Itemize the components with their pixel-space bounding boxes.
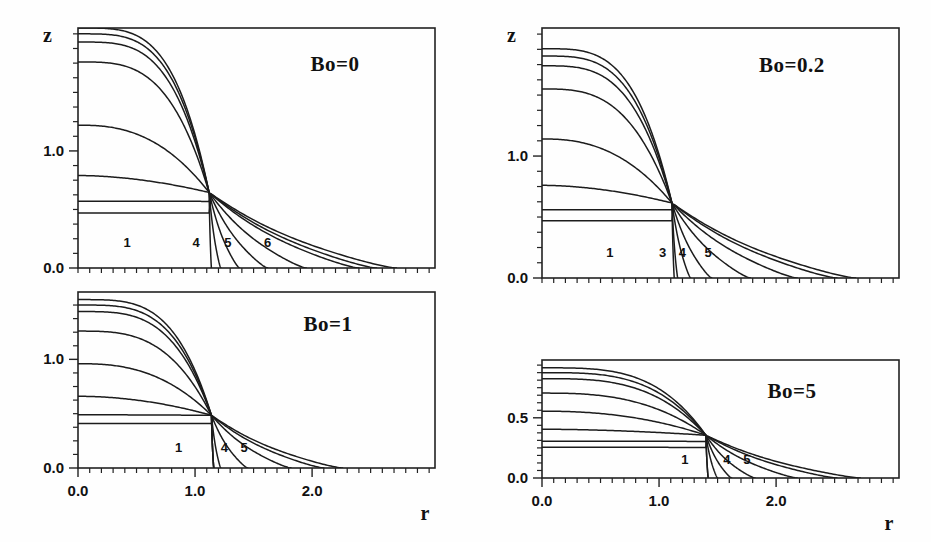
profile-curve-c3 — [542, 429, 797, 478]
curve-label-1: 1 — [606, 245, 613, 260]
x-tick-label: 2.0 — [302, 482, 323, 499]
plot-svg-bo-02: 0.01.0z1345Bo=0.2 — [542, 28, 931, 338]
profile-curve-c8 — [78, 28, 211, 268]
curve-label-4: 4 — [221, 440, 229, 455]
profile-curve-c3 — [78, 396, 291, 468]
profile-curve-c5 — [78, 62, 268, 268]
x-tick-label: 0.0 — [68, 482, 89, 499]
axis-ticks — [69, 305, 429, 477]
curve-label-6: 6 — [264, 235, 271, 250]
plot-panel-bo-02: 0.01.0z1345Bo=0.2 — [542, 28, 931, 338]
axes-frame — [542, 28, 899, 278]
plot-panel-bo-0: 0.01.0z1456Bo=0 — [78, 28, 505, 328]
profile-curve-c6 — [78, 42, 240, 268]
figure-canvas: 0.01.0z1456Bo=00.01.0z1345Bo=0.20.01.00.… — [0, 0, 931, 542]
x-axis-title: r — [421, 502, 430, 524]
profile-curve-c7 — [78, 305, 214, 468]
y-tick-label: 0.0 — [507, 469, 528, 486]
plot-svg-bo-5: 0.00.50.01.02.0r145Bo=5 — [542, 360, 931, 538]
x-tick-label: 2.0 — [766, 492, 787, 509]
plot-panel-bo-5: 0.00.50.01.02.0r145Bo=5 — [542, 360, 931, 538]
profile-curve-c1 — [78, 194, 396, 268]
curve-label-5: 5 — [743, 452, 750, 467]
y-tick-label: 0.0 — [507, 269, 528, 286]
x-tick-label: 1.0 — [649, 492, 670, 509]
y-tick-label: 0.5 — [507, 409, 528, 426]
profile-curve-c5 — [542, 89, 712, 278]
curve-label-4: 4 — [193, 235, 201, 250]
bond-number-label: Bo=0 — [311, 52, 360, 76]
curve-label-1: 1 — [124, 235, 131, 250]
profile-curve-c1 — [78, 416, 343, 468]
profile-curve-c5 — [78, 331, 221, 468]
curve-label-5: 5 — [241, 440, 248, 455]
curve-label-4: 4 — [723, 452, 731, 467]
profile-curve-c2 — [542, 436, 837, 478]
axis-ticks — [533, 34, 893, 283]
profile-curve-c2 — [542, 205, 837, 278]
curve-label-3: 3 — [659, 245, 666, 260]
y-tick-label: 1.0 — [43, 142, 64, 159]
curve-label-5: 5 — [705, 245, 712, 260]
curve-label-5: 5 — [224, 235, 231, 250]
profile-curve-c1 — [542, 436, 860, 478]
profile-curve-c3 — [78, 176, 359, 268]
profile-curve-c4 — [542, 139, 750, 278]
bond-number-label: Bo=0.2 — [759, 53, 825, 77]
y-axis-title: z — [507, 24, 516, 46]
curve-group — [542, 49, 856, 278]
profile-curve-c6 — [542, 66, 691, 278]
plot-svg-bo-1: 0.01.00.01.02.0r145Bo=1 — [78, 292, 505, 528]
axes-frame — [78, 28, 435, 268]
profile-curve-c6 — [78, 312, 214, 468]
y-tick-label: 1.0 — [507, 147, 528, 164]
bond-number-label: Bo=5 — [767, 379, 816, 403]
bond-number-label: Bo=1 — [303, 312, 352, 336]
plot-panel-bo-1: 0.01.00.01.02.0r145Bo=1 — [78, 292, 505, 528]
x-axis-title: r — [885, 512, 894, 534]
curve-label-4: 4 — [679, 245, 687, 260]
y-axis-title: z — [43, 24, 52, 46]
curve-label-1: 1 — [175, 440, 182, 455]
axes-frame — [542, 360, 899, 478]
profile-curve-c2 — [78, 194, 376, 268]
y-tick-label: 0.0 — [43, 259, 64, 276]
y-tick-label: 1.0 — [43, 350, 64, 367]
plot-svg-bo-0: 0.01.0z1456Bo=0 — [78, 28, 505, 328]
curve-label-1: 1 — [681, 452, 688, 467]
y-tick-label: 0.0 — [43, 459, 64, 476]
x-tick-label: 1.0 — [185, 482, 206, 499]
profile-curve-c1 — [542, 205, 856, 278]
x-tick-label: 0.0 — [532, 492, 553, 509]
